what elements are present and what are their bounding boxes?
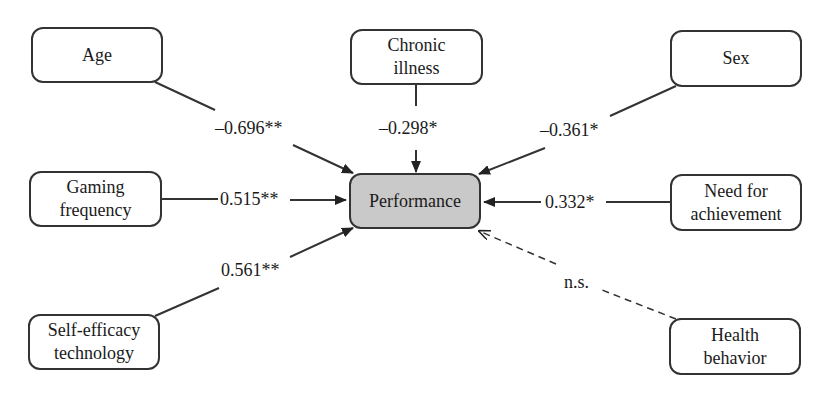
node-gaming-line1: Gaming [67,176,125,199]
node-performance-label: Performance [369,190,461,213]
coef-need-for-achievement: 0.332* [543,192,597,212]
edge-selfeff-arrow [290,228,353,257]
node-chronic-line2: illness [393,57,439,80]
edge-age-arrow [293,145,353,173]
node-age-label: Age [82,44,112,67]
coef-sex: –0.361* [538,120,601,140]
node-chronic-line1: Chronic [388,34,446,57]
node-sex-label: Sex [723,47,750,70]
node-selfeff-line1: Self-efficacy [48,319,141,342]
node-selfeff-line2: technology [54,342,134,365]
coef-chronic-illness: –0.298* [377,118,440,138]
node-gaming-line2: frequency [60,199,132,222]
edge-health [602,290,676,319]
node-health-line1: Health [711,324,759,347]
node-chronic-illness: Chronic illness [350,29,483,85]
node-need-line1: Need for [704,180,767,203]
node-self-efficacy-technology: Self-efficacy technology [28,314,160,370]
node-age: Age [31,27,163,83]
coef-self-efficacy-technology: 0.561** [219,260,282,280]
edge-selfeff [155,288,219,316]
node-health-behavior: Health behavior [669,318,801,375]
node-health-line2: behavior [704,347,767,370]
node-performance: Performance [349,173,481,229]
node-need-for-achievement: Need for achievement [670,174,802,231]
coef-health-behavior: n.s. [562,272,591,292]
edge-health-arrow [479,231,556,264]
coef-gaming-frequency: 0.515** [218,189,281,209]
node-need-line2: achievement [691,203,782,226]
edge-sex [610,86,676,116]
edge-sex-arrow [479,148,545,174]
edge-age [155,82,215,110]
node-sex: Sex [670,30,802,87]
coef-age: –0.696** [213,118,285,138]
node-gaming-frequency: Gaming frequency [29,171,162,227]
